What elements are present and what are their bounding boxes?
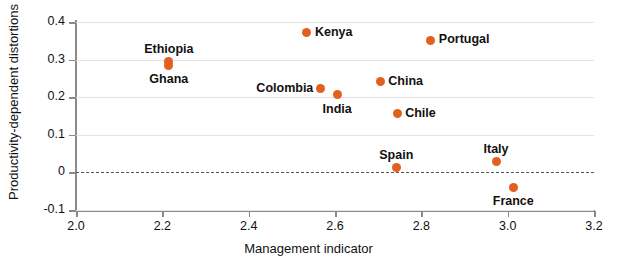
x-axis-tick-label: 2.4 xyxy=(240,219,257,233)
gridline xyxy=(76,22,594,23)
x-axis-tick-label: 3.2 xyxy=(585,219,602,233)
data-point[interactable] xyxy=(509,183,518,192)
plot-area: EthiopiaGhanaKenyaPortugalColombiaIndiaC… xyxy=(76,22,594,210)
x-axis-tick xyxy=(76,211,78,217)
scatter-chart-figure: EthiopiaGhanaKenyaPortugalColombiaIndiaC… xyxy=(0,0,617,270)
y-axis-title: Productivity-dependent distortions xyxy=(6,0,22,222)
x-axis-tick xyxy=(335,211,337,217)
data-point-label: Chile xyxy=(405,106,436,120)
y-axis-tick xyxy=(69,210,76,212)
data-point-label: Colombia xyxy=(256,81,313,95)
chart-title-cropped xyxy=(0,0,617,2)
x-axis-tick-label: 2.6 xyxy=(326,219,343,233)
y-axis-tick xyxy=(69,97,76,99)
data-point-label: Portugal xyxy=(439,32,490,46)
x-axis-tick xyxy=(249,211,251,217)
y-axis-tick-label: 0.3 xyxy=(48,52,65,66)
y-axis-tick xyxy=(69,172,76,174)
data-point-label: Kenya xyxy=(315,25,353,39)
y-axis-tick xyxy=(69,60,76,62)
data-point-label: Italy xyxy=(483,142,508,156)
x-axis-title: Management indicator xyxy=(0,241,617,256)
y-axis-tick-label: 0.2 xyxy=(48,89,65,103)
y-axis-tick-label: 0.4 xyxy=(48,14,65,28)
y-axis-tick-label: 0 xyxy=(58,164,65,178)
gridline xyxy=(76,60,594,61)
data-point-label: Ghana xyxy=(149,72,188,86)
x-axis-tick xyxy=(421,211,423,217)
zero-reference-line xyxy=(76,172,594,173)
data-point[interactable] xyxy=(392,163,401,172)
y-axis-tick xyxy=(69,135,76,137)
data-point-label: Ethiopia xyxy=(144,42,193,56)
x-axis-tick xyxy=(594,211,596,217)
data-point-label: Spain xyxy=(379,148,413,162)
data-point[interactable] xyxy=(492,157,501,166)
x-axis-tick-label: 2.2 xyxy=(154,219,171,233)
data-point[interactable] xyxy=(302,28,311,37)
x-axis-tick-label: 2.0 xyxy=(67,219,84,233)
gridline xyxy=(76,135,594,136)
data-point[interactable] xyxy=(376,77,385,86)
data-point-label: France xyxy=(493,194,534,208)
data-point[interactable] xyxy=(164,61,173,70)
x-axis-tick-label: 2.8 xyxy=(413,219,430,233)
y-axis-tick-label: 0.1 xyxy=(48,127,65,141)
x-axis-tick xyxy=(508,211,510,217)
data-point[interactable] xyxy=(316,84,325,93)
x-axis-tick-label: 3.0 xyxy=(499,219,516,233)
y-axis-tick xyxy=(69,22,76,24)
data-point[interactable] xyxy=(393,109,402,118)
y-axis-tick-label: -0.1 xyxy=(43,202,65,216)
data-point-label: China xyxy=(388,74,423,88)
x-axis-tick xyxy=(162,211,164,217)
data-point[interactable] xyxy=(426,36,435,45)
data-point-label: India xyxy=(323,102,352,116)
